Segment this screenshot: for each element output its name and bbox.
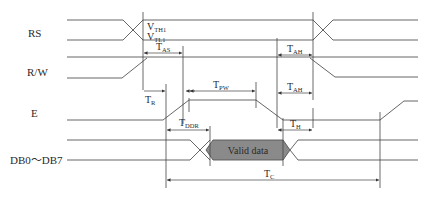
timing-tah-rw: TAH <box>278 43 312 55</box>
svg-text:TAH: TAH <box>287 43 303 55</box>
svg-text:TR: TR <box>145 94 156 106</box>
svg-text:TDDR: TDDR <box>179 117 199 129</box>
signal-label-rs: RS <box>28 27 41 39</box>
rw-waveform <box>67 57 418 78</box>
valid-data-label: Valid data <box>228 145 269 156</box>
signal-label-db: DB0～DB7 <box>10 154 63 166</box>
svg-text:TC: TC <box>264 168 274 180</box>
signal-label-rw: R/W <box>27 66 48 78</box>
svg-text:TAH: TAH <box>287 81 303 93</box>
e-waveform <box>67 100 418 120</box>
signal-label-e: E <box>31 107 38 119</box>
timing-diagram: RS R/W E DB0～DB7 Valid data <box>0 0 436 198</box>
timing-tpw: TPW <box>186 79 255 91</box>
guide-lines <box>143 12 380 188</box>
timing-tr: TR <box>144 91 195 106</box>
threshold-labels: VTH1 VTL1 <box>147 21 166 43</box>
timing-tddr: TDDR <box>167 117 209 130</box>
timing-tc: TC <box>167 168 379 180</box>
rs-waveform <box>67 20 418 40</box>
timing-tah-e: TAH <box>278 81 312 93</box>
svg-text:TPW: TPW <box>213 79 230 91</box>
